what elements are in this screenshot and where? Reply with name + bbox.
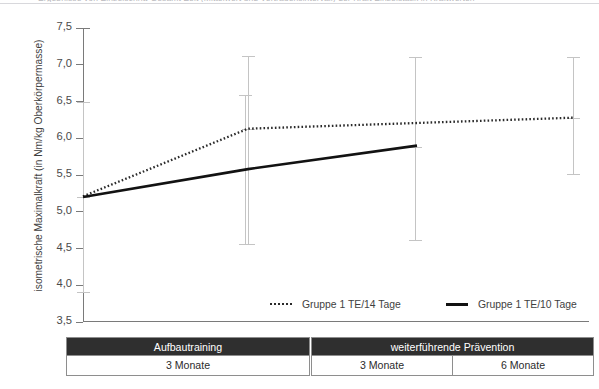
table-row: 3 Monate6 Monate (312, 356, 593, 375)
phase-duration-cell: 6 Monate (452, 356, 593, 375)
phase-group-header: weiterführende Prävention (312, 338, 593, 356)
y-axis-label: 6,0 (28, 130, 72, 142)
y-axis-tick (76, 64, 83, 65)
error-bar-line (248, 56, 249, 244)
chart-legend: Gruppe 1 TE/14 Tage Gruppe 1 TE/10 Tage (270, 299, 590, 315)
error-bar-cap (567, 118, 580, 119)
phase-table: Aufbautraining3 Monateweiterführende Prä… (66, 337, 593, 381)
y-axis-tick (76, 138, 83, 139)
y-axis-label: 3,5 (28, 314, 72, 326)
y-axis-tick (76, 211, 83, 212)
plot-area (83, 28, 589, 322)
legend-item-solid: Gruppe 1 TE/10 Tage (446, 299, 577, 310)
y-axis-label: 5,5 (28, 167, 72, 179)
y-axis-tick (76, 28, 83, 29)
y-axis-label: 7,0 (28, 57, 72, 69)
error-bar-cap (242, 56, 255, 57)
y-axis-tick (76, 322, 83, 323)
y-axis-label: 6,5 (28, 94, 72, 106)
figure-caption: Ergebnisse von Einzelschritt-Gesamt-Zeit… (38, 0, 583, 2)
phase-group: weiterführende Prävention3 Monate6 Monat… (311, 337, 594, 376)
phase-duration-cell: 3 Monate (67, 356, 309, 375)
error-bar-cap (239, 95, 252, 96)
y-axis-label: 4,0 (28, 277, 72, 289)
y-axis-tick (76, 285, 83, 286)
error-bar-cap (409, 57, 422, 58)
y-axis-tick (76, 248, 83, 249)
phase-group-header: Aufbautraining (67, 338, 309, 356)
dotted-line-icon (270, 303, 292, 305)
legend-item-dotted: Gruppe 1 TE/14 Tage (270, 299, 401, 310)
error-bar-cap (77, 292, 90, 293)
error-bar-cap (409, 240, 422, 241)
solid-line-icon (446, 303, 468, 306)
error-bar-line (573, 57, 574, 174)
phase-duration-cell: 3 Monate (312, 356, 452, 375)
table-row: 3 Monate (67, 356, 309, 375)
error-bar-line (415, 57, 416, 240)
error-bar-cap (77, 102, 90, 103)
error-bar-cap (239, 169, 252, 170)
legend-label-solid: Gruppe 1 TE/10 Tage (478, 299, 577, 310)
top-divider (0, 3, 599, 4)
error-bar-cap (242, 244, 255, 245)
error-bar-cap (242, 129, 255, 130)
y-axis-tick (76, 175, 83, 176)
legend-label-dotted: Gruppe 1 TE/14 Tage (302, 299, 401, 310)
error-bar-cap (409, 147, 422, 148)
phase-group: Aufbautraining3 Monate (66, 337, 310, 376)
error-bar-cap (567, 57, 580, 58)
y-axis-label: 7,5 (28, 20, 72, 32)
chart-page: Ergebnisse von Einzelschritt-Gesamt-Zeit… (0, 0, 599, 389)
error-bar-cap (77, 197, 90, 198)
y-axis-label: 4,5 (28, 241, 72, 253)
error-bar-cap (567, 174, 580, 175)
y-axis-label: 5,0 (28, 204, 72, 216)
